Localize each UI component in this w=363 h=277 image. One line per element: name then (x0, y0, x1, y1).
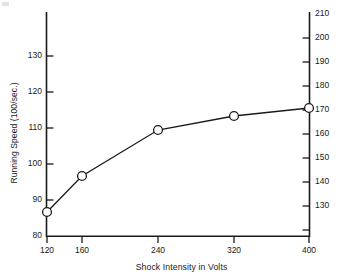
data-markers (43, 104, 314, 217)
left-axis-ticks (47, 56, 54, 200)
data-point-400v (305, 104, 314, 113)
data-point-320v (230, 112, 239, 121)
y-left-axis-title: Running Speed (100/sec.) (9, 58, 19, 208)
data-point-120v (43, 208, 52, 217)
chart-canvas (0, 0, 363, 277)
y-right-tick-130: 130 (315, 201, 349, 210)
right-axis-ticks (303, 38, 310, 230)
x-tick-120: 120 (27, 246, 67, 255)
data-point-240v (154, 126, 163, 135)
x-axis-title: Shock Intensity in Volts (0, 262, 363, 272)
y-right-tick-210: 210 (315, 9, 349, 18)
x-tick-400: 400 (289, 246, 329, 255)
bottom-axis-ticks (47, 236, 309, 243)
y-right-tick-190: 190 (315, 57, 349, 66)
x-tick-320: 320 (214, 246, 254, 255)
data-point-160v (78, 172, 87, 181)
y-right-tick-160: 160 (315, 129, 349, 138)
y-right-tick-140: 140 (315, 177, 349, 186)
x-tick-240: 240 (138, 246, 178, 255)
y-right-tick-200: 200 (315, 33, 349, 42)
y-right-tick-170: 170 (315, 105, 349, 114)
x-tick-160: 160 (62, 246, 102, 255)
y-right-tick-180: 180 (315, 81, 349, 90)
data-line-running-speed (47, 108, 309, 212)
y-left-tick-80: 80 (8, 231, 42, 240)
y-right-tick-150: 150 (315, 153, 349, 162)
chart-figure: 130 120 110 100 90 80 210 200 190 180 17… (0, 0, 363, 277)
